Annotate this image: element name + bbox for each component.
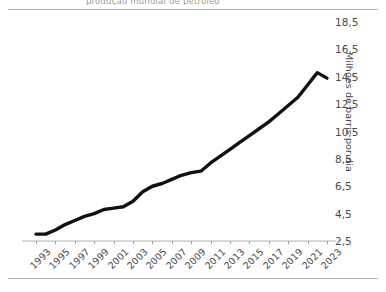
x-axis-ticks: 1993199519971999200120032005200720092011… (0, 246, 345, 286)
x-axis-tick-label: 2023 (319, 246, 344, 271)
x-axis-tick-label: 2005 (144, 246, 169, 271)
y-axis-tick-label: 2,5 (335, 236, 365, 246)
x-axis-tick-mark (249, 241, 250, 244)
x-axis-tick-label: 2015 (241, 246, 266, 271)
y-axis-tick-label: 4,5 (335, 209, 365, 219)
x-axis-tick-label: 2003 (125, 246, 150, 271)
x-axis-tick-label: 1999 (86, 246, 111, 271)
x-axis-tick-mark (269, 241, 270, 244)
x-axis-tick-mark (55, 241, 56, 244)
x-axis-tick-label: 2013 (222, 246, 247, 271)
chart-figure: produção mundial de petróleo 18,516,514,… (0, 0, 386, 292)
x-axis-tick-mark (191, 241, 192, 244)
x-axis-tick-label: 2011 (202, 246, 227, 271)
y-axis-title: Milhões de barris por dia (344, 52, 355, 172)
x-axis-tick-label: 2017 (260, 246, 285, 271)
x-axis-tick-label: 2021 (299, 246, 324, 271)
x-axis-tick-mark (172, 241, 173, 244)
x-axis-tick-mark (133, 241, 134, 244)
x-axis-tick-mark (230, 241, 231, 244)
x-axis-tick-label: 2007 (163, 246, 188, 271)
top-divider (8, 9, 378, 10)
line-chart-svg (0, 14, 340, 246)
x-axis-tick-mark (114, 241, 115, 244)
x-axis-tick-label: 2009 (183, 246, 208, 271)
x-axis-tick-label: 1993 (28, 246, 53, 271)
x-axis-tick-mark (211, 241, 212, 244)
plot-area (0, 14, 340, 246)
bottom-divider (8, 278, 378, 279)
data-series-line (36, 73, 327, 235)
x-axis-tick-mark (288, 241, 289, 244)
x-axis-tick-label: 1997 (66, 246, 91, 271)
y-axis-tick-label: 18,5 (335, 17, 365, 27)
x-axis-tick-label: 2001 (105, 246, 130, 271)
x-axis-tick-mark (36, 241, 37, 244)
x-axis-tick-label: 1995 (47, 246, 72, 271)
x-axis-tick-mark (75, 241, 76, 244)
x-axis-tick-mark (327, 241, 328, 244)
y-axis-tick-label: 6,5 (335, 181, 365, 191)
x-axis-tick-mark (94, 241, 95, 244)
clipped-chart-title: produção mundial de petróleo (86, 0, 286, 5)
x-axis-tick-mark (152, 241, 153, 244)
x-axis-tick-label: 2019 (280, 246, 305, 271)
x-axis-tick-mark (308, 241, 309, 244)
